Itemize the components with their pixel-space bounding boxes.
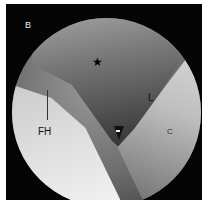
panel-label: B bbox=[25, 20, 31, 30]
highlight bbox=[116, 130, 120, 132]
label-fh: FH bbox=[38, 127, 51, 137]
arthroscopic-view bbox=[12, 18, 201, 200]
label-c: C bbox=[167, 128, 173, 136]
image-frame: B bbox=[6, 4, 202, 200]
label-l: L bbox=[148, 93, 154, 103]
scratch-line bbox=[47, 90, 48, 120]
star-marker: ★ bbox=[92, 55, 103, 69]
